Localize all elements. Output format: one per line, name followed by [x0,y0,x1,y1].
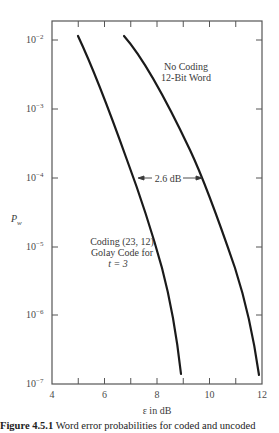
plot-frame [52,21,262,384]
figure-caption-text: Word error probabilities for coded and u… [56,420,256,431]
x-tick-labels: 4 6 8 10 12 [50,389,268,400]
svg-text:10−5: 10−5 [26,240,44,252]
annotation-no-coding: No Coding [164,61,208,72]
svg-text:10−4: 10−4 [26,171,44,183]
x-axis-title: ε in dB [143,405,172,416]
svg-text:10−2: 10−2 [26,33,44,45]
x-axis-ticks-bottom [78,378,236,384]
svg-text:10−3: 10−3 [26,102,44,114]
svg-text:6: 6 [102,389,107,400]
figure-number: Figure 4.5.1 [0,420,53,431]
svg-text:8: 8 [155,389,160,400]
annotation-gap-2-6-db: 2.6 dB [155,173,182,184]
figure-caption: Figure 4.5.1 Word error probabilities fo… [0,420,279,431]
series-coded-golay-curve [78,36,181,374]
chart: 10−2 10−3 10−4 10−5 10−6 10−7 4 6 8 10 1… [0,0,279,433]
svg-text:10: 10 [205,389,215,400]
y-tick-labels: 10−2 10−3 10−4 10−5 10−6 10−7 [26,33,44,389]
y-axis-title: Pw [10,213,22,227]
annotation-t-equals-3: t = 3 [108,258,128,269]
svg-text:10−6: 10−6 [26,308,44,320]
annotation-golay-code-for: Golay Code for [91,247,154,258]
svg-text:10−7: 10−7 [26,377,44,389]
svg-text:4: 4 [50,389,55,400]
svg-text:12: 12 [257,389,267,400]
series-uncoded-curve [124,36,259,375]
annotation-12-bit-word: 12-Bit Word [161,72,211,83]
x-axis-ticks-top [78,21,236,27]
